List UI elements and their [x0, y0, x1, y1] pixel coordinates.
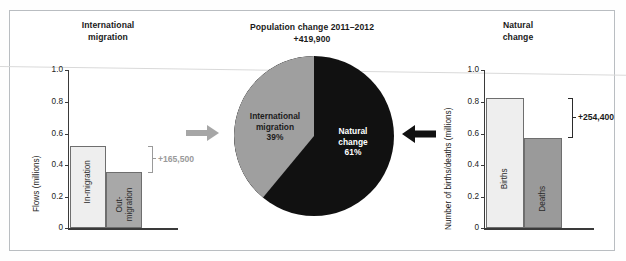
bar-label-in-migration: In-migration [83, 148, 93, 216]
bar-label-out-migration: Out- migration [115, 171, 134, 239]
left-ticklabel-1.0: 1.0 [32, 66, 63, 74]
right-tick-0.4 [481, 165, 484, 166]
right-ticklabel-0: 0 [448, 224, 479, 232]
population-change-figure: International migration Flows (millions)… [0, 0, 626, 261]
left-chart-title: International migration [38, 20, 178, 43]
left-ticklabel-0.6: 0.6 [32, 130, 63, 138]
right-x-axis [484, 228, 594, 230]
pie-label-natural-change: Natural change 61% [317, 126, 389, 158]
left-ticklabel-0: 0 [32, 224, 63, 232]
right-ticklabel-0.6: 0.6 [448, 130, 479, 138]
bar-label-births: Births [500, 159, 510, 199]
left-difference-bracket [148, 146, 157, 173]
right-tick-1.0 [481, 70, 484, 71]
right-tick-0 [481, 228, 484, 229]
left-tick-0.6 [65, 134, 68, 135]
right-ticklabel-0.2: 0.2 [448, 193, 479, 201]
right-difference-bracket [568, 98, 577, 138]
panel-population-change: Population change 2011–2012 +419,900 Int… [213, 14, 409, 246]
right-chart-title: Natural change [458, 20, 578, 43]
center-chart-title: Population change 2011–2012 +419,900 [217, 22, 407, 45]
right-tick-0.2 [481, 197, 484, 198]
left-tick-0.4 [65, 165, 68, 166]
left-difference-annotation: +165,500 [158, 154, 194, 164]
pie-label-international-migration: International migration 39% [229, 111, 321, 143]
right-ticklabel-0.8: 0.8 [448, 98, 479, 106]
left-tick-1.0 [65, 70, 68, 71]
left-ticklabel-0.4: 0.4 [32, 161, 63, 169]
right-tick-0.8 [481, 102, 484, 103]
panel-international-migration: International migration Flows (millions)… [20, 14, 195, 246]
left-ticklabel-0.2: 0.2 [32, 193, 63, 201]
right-difference-annotation: +254,400 [578, 112, 614, 122]
left-ticklabel-0.8: 0.8 [32, 98, 63, 106]
bar-label-deaths: Deaths [538, 179, 548, 219]
left-tick-0.2 [65, 197, 68, 198]
left-tick-0 [65, 228, 68, 229]
right-ticklabel-0.4: 0.4 [448, 161, 479, 169]
right-tick-0.6 [481, 134, 484, 135]
left-tick-0.8 [65, 102, 68, 103]
arrow-left-icon [400, 122, 436, 146]
panel-natural-change: Natural change Number of births/deaths (… [432, 14, 612, 246]
right-ticklabel-1.0: 1.0 [448, 66, 479, 74]
